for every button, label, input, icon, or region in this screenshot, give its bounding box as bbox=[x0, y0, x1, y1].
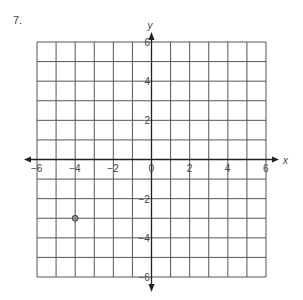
x-axis-label: x bbox=[282, 155, 289, 166]
y-tick-label: 2 bbox=[145, 115, 151, 126]
coordinate-grid: xy−6−4−20246642−2−4−6 bbox=[0, 0, 303, 300]
x-tick-label: 2 bbox=[187, 163, 193, 174]
tick-labels: xy−6−4−20246642−2−4−6 bbox=[31, 20, 289, 283]
x-tick-label: 6 bbox=[263, 163, 269, 174]
y-tick-label: 6 bbox=[145, 37, 151, 48]
x-tick-label: −4 bbox=[69, 163, 81, 174]
x-tick-label: 0 bbox=[149, 163, 155, 174]
plotted-point bbox=[72, 215, 78, 221]
plotted-points bbox=[72, 215, 78, 221]
y-tick-label: −6 bbox=[139, 272, 151, 283]
x-axis-left-arrow-icon bbox=[24, 157, 31, 163]
x-axis-right-arrow-icon bbox=[272, 157, 279, 163]
x-tick-label: −6 bbox=[31, 163, 43, 174]
y-axis-label: y bbox=[147, 20, 154, 31]
y-tick-label: 4 bbox=[145, 76, 151, 87]
y-axis-down-arrow-icon bbox=[149, 284, 155, 292]
x-tick-label: 4 bbox=[225, 163, 231, 174]
y-tick-label: −4 bbox=[139, 233, 151, 244]
x-tick-label: −2 bbox=[107, 163, 119, 174]
y-tick-label: −2 bbox=[139, 194, 151, 205]
